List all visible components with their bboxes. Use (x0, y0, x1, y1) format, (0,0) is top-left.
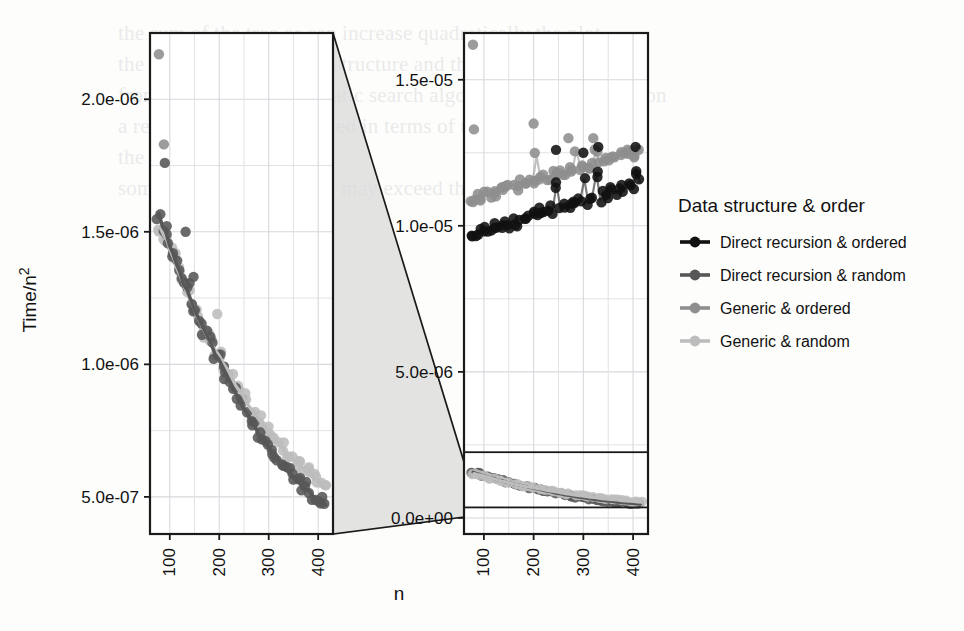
left-x-ticklabel: 300 (259, 548, 278, 576)
left-y-ticklabel: 5.0e-07 (81, 488, 139, 507)
left-panel-y-ticklabels: 5.0e-071.0e-061.5e-062.0e-06 (81, 90, 139, 507)
outlier-point (188, 272, 198, 282)
legend: Data structure & order Direct recursion … (678, 195, 907, 350)
data-point (530, 148, 540, 158)
outlier-point (593, 142, 603, 152)
left-y-ticklabel: 1.0e-06 (81, 355, 139, 374)
left-y-ticklabel: 1.5e-06 (81, 223, 139, 242)
outlier-point (212, 309, 222, 319)
figure-page: the sum of the tree or can increase quad… (0, 0, 964, 631)
outlier-point (563, 133, 573, 143)
left-y-ticklabel: 2.0e-06 (81, 90, 139, 109)
outlier-point (468, 39, 478, 49)
right-y-ticklabel: 0.0e+00 (391, 509, 453, 528)
outlier-point (469, 124, 479, 134)
legend-key-point (690, 270, 701, 281)
left-x-ticklabel: 100 (160, 548, 179, 576)
legend-item[interactable]: Generic & ordered (680, 300, 851, 317)
legend-key-point (690, 336, 701, 347)
zoom-connector-polygon (333, 33, 464, 534)
left-x-ticklabel: 400 (309, 548, 328, 576)
outlier-point (160, 158, 170, 168)
outlier-point (588, 133, 598, 143)
svg-text:Time/n2: Time/n2 (16, 267, 40, 332)
y-axis-title: Time/n2 (16, 267, 40, 332)
right-x-ticklabel: 200 (524, 548, 543, 576)
legend-entries: Direct recursion & orderedDirect recursi… (680, 234, 907, 350)
right-panel-x-ticklabels: 100200300400 (474, 548, 642, 576)
right-x-ticklabel: 400 (624, 548, 643, 576)
x-axis-title: n (394, 583, 405, 604)
right-y-ticklabel: 5.0e-06 (395, 363, 453, 382)
chart-figure: 5.0e-071.0e-061.5e-062.0e-06 10020030040… (0, 0, 964, 631)
legend-key-point (690, 237, 701, 248)
outlier-point (180, 227, 190, 237)
outlier-point (159, 139, 169, 149)
outlier-point (154, 49, 164, 59)
legend-item-label: Direct recursion & ordered (720, 234, 907, 251)
outlier-point (528, 118, 538, 128)
y-axis-title-exponent: 2 (16, 267, 32, 275)
right-y-ticklabel: 1.5e-05 (395, 71, 453, 90)
left-x-ticklabel: 200 (210, 548, 229, 576)
legend-item[interactable]: Direct recursion & random (680, 267, 906, 284)
legend-item[interactable]: Generic & random (680, 333, 850, 350)
legend-item-label: Generic & random (720, 333, 850, 350)
y-axis-title-text: Time/n (19, 275, 40, 332)
legend-item[interactable]: Direct recursion & ordered (680, 234, 907, 251)
outlier-point (551, 145, 561, 155)
legend-title: Data structure & order (678, 195, 866, 216)
legend-key-point (690, 303, 701, 314)
legend-item-label: Generic & ordered (720, 300, 851, 317)
legend-item-label: Direct recursion & random (720, 267, 906, 284)
right-y-ticklabel: 1.0e-05 (395, 217, 453, 236)
right-x-ticklabel: 100 (474, 548, 493, 576)
left-panel-x-ticklabels: 100200300400 (160, 548, 327, 576)
left-panel: 5.0e-071.0e-061.5e-062.0e-06 10020030040… (81, 33, 333, 576)
outlier-point (578, 148, 588, 158)
right-x-ticklabel: 300 (574, 548, 593, 576)
